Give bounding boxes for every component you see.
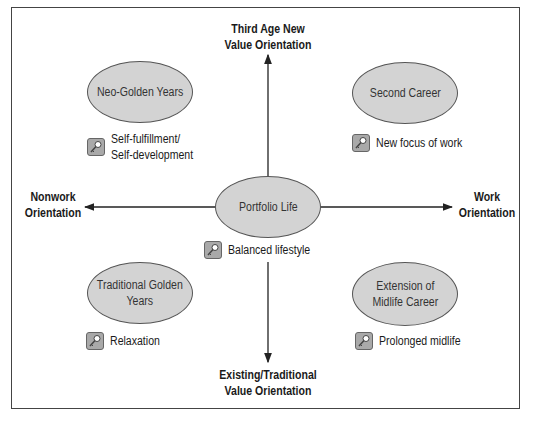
ellipse-neo-golden-years: Neo-Golden Years (87, 61, 193, 123)
note-extension-of-midlife-career: Prolonged midlife (355, 332, 472, 350)
axis-label-right: Work Orientation (456, 189, 518, 221)
ellipse-title: Second Career (369, 85, 440, 101)
ellipse-title: Portfolio Life (239, 199, 298, 215)
note-traditional-golden-years: Relaxation (86, 332, 167, 350)
ellipse-traditional-golden-years: Traditional Golden Years (87, 262, 193, 324)
note-text: New focus of work (376, 135, 462, 151)
note-text: Balanced lifestyle (228, 242, 310, 258)
note-text: Self-fulfillment/ Self-development (111, 131, 193, 163)
note-text: Prolonged midlife (379, 333, 461, 349)
key-icon (87, 138, 105, 156)
axis-label-top: Third Age New Value Orientation (215, 21, 321, 53)
ellipse-portfolio-life: Portfolio Life (215, 176, 321, 238)
key-icon (86, 332, 104, 350)
key-icon (352, 134, 370, 152)
note-portfolio-life: Balanced lifestyle (204, 241, 321, 259)
ellipse-title: Extension of Midlife Career (372, 278, 438, 310)
ellipse-title: Traditional Golden Years (97, 277, 183, 309)
note-text: Relaxation (110, 333, 160, 349)
note-second-career: New focus of work (352, 134, 474, 152)
note-neo-golden-years: Self-fulfillment/ Self-development (87, 131, 204, 163)
axis-label-left: Nonwork Orientation (24, 189, 82, 221)
ellipse-second-career: Second Career (352, 62, 458, 124)
ellipse-title: Neo-Golden Years (97, 84, 183, 100)
key-icon (204, 241, 222, 259)
ellipse-extension-of-midlife-career: Extension of Midlife Career (352, 262, 458, 326)
axis-label-bottom: Existing/Traditional Value Orientation (215, 367, 321, 399)
key-icon (355, 332, 373, 350)
